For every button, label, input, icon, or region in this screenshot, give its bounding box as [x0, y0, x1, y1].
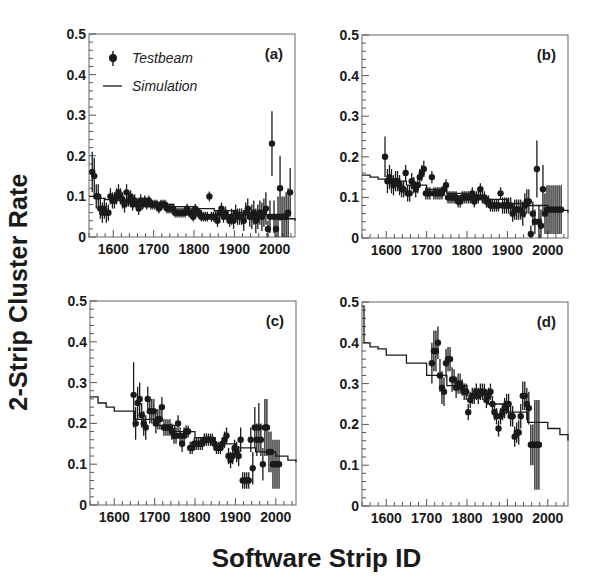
data-point	[136, 396, 142, 402]
x-tick-label: 1700	[411, 510, 442, 526]
y-tick-label: 0	[351, 230, 359, 246]
data-point	[443, 182, 449, 188]
data-point	[159, 404, 165, 410]
x-tick-label: 2000	[532, 510, 563, 526]
data-point	[540, 186, 546, 192]
testbeam-points	[130, 362, 282, 488]
legend-label-testbeam: Testbeam	[132, 50, 193, 66]
data-point	[558, 206, 564, 212]
panel-label: (a)	[265, 45, 283, 62]
x-tick-label: 1600	[99, 509, 130, 525]
x-tick-label: 1600	[371, 510, 402, 526]
testbeam-points	[382, 137, 565, 239]
data-point	[487, 389, 493, 395]
data-point	[526, 198, 532, 204]
y-tick-label: 0.4	[340, 335, 360, 351]
data-point	[536, 442, 542, 448]
panel-label: (c)	[266, 312, 284, 329]
data-point	[518, 413, 524, 419]
x-tick-label: 1800	[451, 510, 482, 526]
legend: TestbeamSimulation	[103, 50, 198, 94]
data-point	[130, 392, 136, 398]
plot-frame	[362, 35, 568, 238]
x-tick-label: 1600	[371, 242, 402, 258]
panel-label: (b)	[537, 46, 556, 63]
y-tick-label: 0.5	[340, 294, 360, 310]
data-point	[105, 209, 111, 215]
data-point	[402, 170, 408, 176]
data-point	[223, 432, 229, 438]
data-point	[429, 174, 435, 180]
y-tick-label: 0	[351, 498, 359, 514]
x-tick-label: 2000	[260, 509, 291, 525]
y-tick-label: 0	[79, 497, 87, 513]
x-tick-label: 2000	[259, 241, 290, 257]
y-tick-label: 0.5	[67, 26, 87, 42]
x-axis: 16001700180019002000	[89, 230, 291, 257]
y-tick-label: 0.3	[340, 376, 360, 392]
x-tick-label: 1900	[492, 242, 523, 258]
data-point	[235, 453, 241, 459]
figure-canvas: 00.10.20.30.40.516001700180019002000(a)0…	[0, 0, 603, 585]
data-point	[269, 140, 275, 146]
data-point	[263, 205, 269, 211]
y-tick-label: 0.1	[68, 456, 88, 472]
testbeam-marker-icon	[109, 51, 117, 66]
panel-d: 00.10.20.30.40.516001700180019002000(d)	[340, 294, 568, 526]
x-tick-label: 1700	[411, 242, 442, 258]
y-axis: 00.10.20.30.40.5	[68, 293, 97, 513]
data-point	[185, 428, 191, 434]
data-point	[463, 389, 469, 395]
panel-b: 00.10.20.30.40.516001700180019002000(b)	[340, 27, 568, 258]
x-tick-label: 2000	[532, 242, 563, 258]
panel-c: 00.10.20.30.40.516001700180019002000(c)	[68, 293, 296, 525]
x-tick-label: 1800	[451, 242, 482, 258]
x-tick-label: 1800	[178, 241, 209, 257]
y-tick-label: 0.5	[340, 27, 360, 43]
data-point	[206, 193, 212, 199]
data-point	[495, 425, 501, 431]
y-tick-label: 0.3	[68, 375, 88, 391]
y-tick-label: 0.1	[67, 188, 87, 204]
y-tick-label: 0	[78, 229, 86, 245]
y-axis-label: 2-Strip Cluster Rate	[4, 173, 33, 410]
y-tick-label: 0.3	[340, 108, 360, 124]
data-point	[465, 409, 471, 415]
x-axis: 16001700180019002000	[362, 499, 564, 526]
data-point	[441, 389, 447, 395]
data-point	[538, 223, 544, 229]
data-point	[497, 190, 503, 196]
x-tick-label: 1700	[139, 509, 170, 525]
x-tick-label: 1900	[219, 241, 250, 257]
data-point	[175, 420, 181, 426]
y-tick-label: 0.1	[340, 189, 360, 205]
y-tick-label: 0.4	[67, 67, 87, 83]
data-point	[528, 231, 534, 237]
x-tick-label: 1600	[98, 241, 129, 257]
y-tick-label: 0.2	[340, 149, 360, 165]
data-point	[382, 154, 388, 160]
x-tick-label: 1800	[179, 509, 210, 525]
data-point	[287, 189, 293, 195]
y-axis: 00.10.20.30.40.5	[67, 26, 96, 245]
data-point	[264, 424, 270, 430]
data-point	[534, 166, 540, 172]
data-point	[421, 166, 427, 172]
data-point	[260, 461, 266, 467]
data-point	[406, 190, 412, 196]
y-tick-label: 0.2	[67, 148, 87, 164]
testbeam-points	[89, 111, 293, 237]
data-point	[143, 424, 149, 430]
x-axis: 16001700180019002000	[90, 498, 292, 525]
data-point	[516, 429, 522, 435]
data-point	[276, 461, 282, 467]
data-point	[277, 185, 283, 191]
legend-label-simulation: Simulation	[132, 78, 198, 94]
data-point	[447, 356, 453, 362]
x-tick-label: 1900	[220, 509, 251, 525]
testbeam-points	[429, 326, 542, 489]
y-tick-label: 0.3	[67, 107, 87, 123]
data-point	[246, 477, 252, 483]
data-point	[237, 437, 243, 443]
x-axis-label: Software Strip ID	[0, 543, 603, 574]
